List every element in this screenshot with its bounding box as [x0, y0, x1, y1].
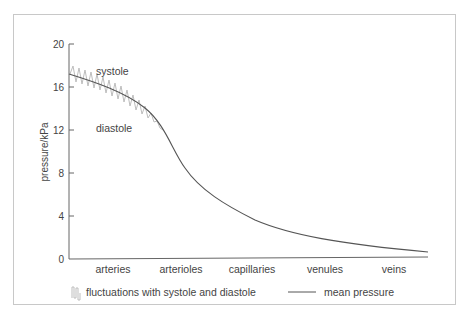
systole-label: systole — [96, 65, 129, 77]
category-label-venules: venules — [307, 263, 343, 275]
diastole-label: diastole — [96, 122, 132, 134]
y-tick-label: 20 — [53, 39, 65, 50]
blood-pressure-chart: 20 16 12 8 4 0 pressure/kPa systole dias… — [0, 0, 460, 325]
category-label-arterioles: arterioles — [159, 263, 202, 275]
y-tick-label: 4 — [58, 211, 64, 222]
y-tick-label: 8 — [58, 168, 64, 179]
y-axis-label: pressure/kPa — [39, 122, 50, 181]
legend-mean-label: mean pressure — [324, 286, 394, 298]
mean-pressure-line — [69, 74, 428, 252]
legend-fluctuations-label: fluctuations with systole and diastole — [86, 286, 256, 298]
category-label-veins: veins — [382, 263, 407, 275]
y-tick-label: 0 — [58, 254, 64, 265]
y-tick-label: 12 — [53, 125, 65, 136]
category-label-arteries: arteries — [95, 263, 130, 275]
y-tick-label: 16 — [53, 82, 65, 93]
fluctuation-legend-icon — [72, 287, 80, 300]
category-label-capillaries: capillaries — [229, 263, 276, 275]
x-axis — [69, 257, 428, 259]
